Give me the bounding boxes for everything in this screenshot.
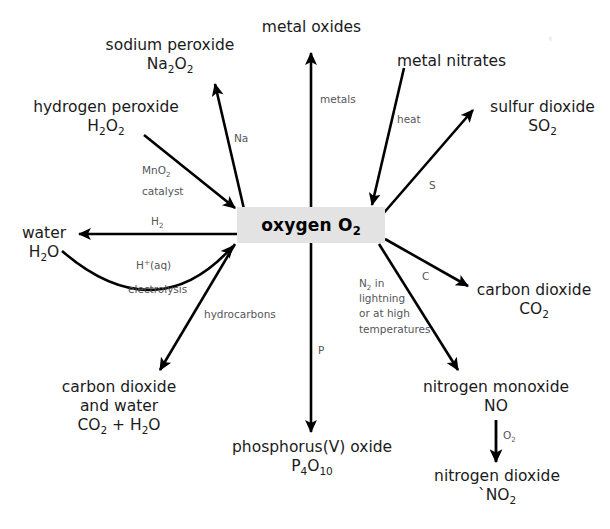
node-no2-line2: `NO2 — [427, 486, 567, 505]
edge-label-n2-l1: N2 in — [359, 277, 384, 289]
edge-label-h2: H2 — [151, 214, 163, 229]
node-nitrogen-dioxide[interactable]: nitrogen dioxide `NO2 — [427, 467, 567, 505]
center-node-oxygen[interactable]: oxygen O2 — [237, 207, 385, 243]
node-sodium-peroxide-line1: sodium peroxide — [106, 36, 235, 54]
edge-label-o2: O2 — [503, 428, 516, 443]
node-phosphorus-line1: phosphorus(V) oxide — [232, 438, 392, 456]
node-hydrogen-peroxide[interactable]: hydrogen peroxide H2O2 — [26, 98, 186, 136]
node-water-line2: H2O — [10, 243, 78, 262]
edge-label-mno2: MnO2 — [142, 163, 171, 178]
edge-label-s: S — [429, 178, 436, 193]
edge-label-hydrocarbons: hydrocarbons — [204, 307, 276, 322]
node-no2-line1: nitrogen dioxide — [434, 467, 560, 485]
edge-label-catalyst: catalyst — [142, 184, 183, 199]
node-metal-nitrates[interactable]: metal nitrates — [389, 52, 514, 71]
edge-label-n2-l2: lightning — [359, 292, 405, 304]
node-water-line1: water — [22, 224, 66, 242]
arrow-to-sulfur-dioxide — [382, 110, 473, 215]
node-phosphorus-v-oxide[interactable]: phosphorus(V) oxide P4O10 — [232, 438, 392, 476]
node-metal-oxides-line1: metal oxides — [262, 18, 361, 36]
edge-label-p: P — [318, 343, 324, 358]
node-sd-line1: sulfur dioxide — [490, 98, 595, 116]
edge-label-n2-l3: or at high — [359, 307, 410, 319]
image-artifact-speck — [549, 36, 552, 41]
edge-label-metals: metals — [320, 92, 356, 107]
edge-label-n2-lightning: N2 in lightning or at high temperatures — [359, 276, 423, 337]
edge-label-heat: heat — [397, 112, 421, 127]
node-sd-line2: SO2 — [485, 117, 600, 136]
node-cd-water-line2: and water — [44, 397, 194, 416]
node-phosphorus-line2: P4O10 — [232, 457, 392, 476]
arrow-to-sodium-peroxide — [215, 84, 244, 209]
edge-label-electrolysis: electrolysis — [128, 282, 187, 297]
node-carbon-dioxide-and-water[interactable]: carbon dioxide and water CO2 + H2O — [44, 378, 194, 435]
node-sulfur-dioxide[interactable]: sulfur dioxide SO2 — [485, 98, 600, 136]
node-no-line1: nitrogen monoxide — [423, 378, 569, 396]
node-carbon-dioxide[interactable]: carbon dioxide CO2 — [470, 281, 598, 319]
node-cd-line2: CO2 — [470, 300, 598, 319]
center-node-label: oxygen O2 — [261, 215, 361, 235]
node-cd-water-line1: carbon dioxide — [62, 378, 176, 396]
node-hydrogen-peroxide-line2: H2O2 — [26, 117, 186, 136]
arrow-from-metal-nitrates — [372, 68, 404, 205]
edge-label-h-aq: H+(aq) — [136, 258, 171, 273]
node-nitrogen-monoxide[interactable]: nitrogen monoxide NO — [420, 378, 572, 416]
node-cd-water-line3: CO2 + H2O — [44, 416, 194, 435]
edge-label-na: Na — [234, 131, 248, 146]
node-sodium-peroxide[interactable]: sodium peroxide Na2O2 — [104, 36, 236, 74]
node-metal-oxides[interactable]: metal oxides — [254, 18, 369, 37]
edge-label-n2-l4: temperatures — [359, 323, 430, 335]
node-water[interactable]: water H2O — [10, 224, 78, 262]
node-no-line2: NO — [420, 397, 572, 416]
node-metal-nitrates-line1: metal nitrates — [397, 52, 506, 70]
edge-label-c: C — [422, 269, 429, 284]
node-sodium-peroxide-line2: Na2O2 — [104, 55, 236, 74]
node-cd-line1: carbon dioxide — [477, 281, 591, 299]
node-hydrogen-peroxide-line1: hydrogen peroxide — [33, 98, 179, 116]
